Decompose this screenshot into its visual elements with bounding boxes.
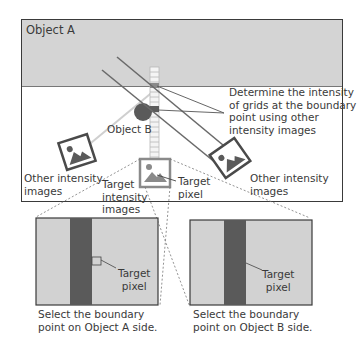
panel-left-boundary-band [70, 218, 92, 305]
grid-column [150, 67, 159, 167]
panel-left-target-pixel [92, 257, 101, 265]
determine-note: Determine the intensity of grids at the … [229, 86, 356, 136]
caption-left: Select the boundary point on Object A si… [38, 308, 157, 333]
light-ray [80, 90, 155, 152]
image-icon-right [210, 138, 251, 178]
panel-right-boundary-band [224, 220, 246, 305]
other-images-left-label: Other intensity images [24, 172, 103, 197]
panel-right-target-label: Target pixel [262, 268, 294, 293]
target-images-label: Target intensity images [102, 178, 148, 216]
caption-right: Select the boundary point on Object B si… [193, 308, 312, 333]
panel-left-target-label: Target pixel [118, 267, 150, 292]
other-images-right-label: Other intensity images [250, 172, 329, 197]
object-a-label: Object A [26, 24, 75, 37]
image-icon-left [58, 134, 95, 170]
target-pixel-top-label: Target pixel [178, 175, 210, 200]
leader-line-2 [158, 110, 224, 113]
object-b-circle [134, 103, 152, 121]
object-b-label: Object B [107, 123, 152, 136]
